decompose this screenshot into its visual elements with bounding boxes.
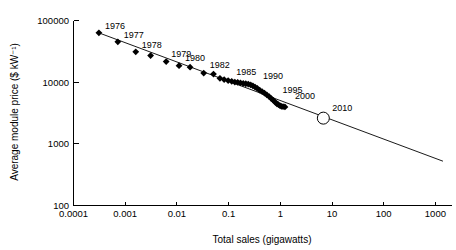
year-label-1985: 1985 — [236, 67, 256, 77]
data-point-diamond — [96, 29, 103, 36]
x-tick-label: 10 — [327, 208, 338, 219]
data-point-diamond — [132, 48, 139, 55]
y-tick-label: 100000 — [37, 15, 69, 26]
year-label-1978: 1978 — [142, 40, 162, 50]
data-point-diamond — [187, 64, 194, 71]
x-tick-label: 0.01 — [168, 208, 187, 219]
y-axis-ticks: 100100010000100000 — [37, 15, 78, 211]
year-label-1990: 1990 — [263, 71, 283, 81]
data-markers-group — [96, 29, 330, 124]
year-label-1977: 1977 — [124, 30, 144, 40]
x-tick-label: 1000 — [425, 208, 446, 219]
chart-canvas: 0.00010.0010.010.11101001000 10010001000… — [0, 0, 456, 250]
x-tick-label: 1 — [278, 208, 283, 219]
x-axis-title: Total sales (gigawatts) — [213, 234, 312, 245]
year-label-1976: 1976 — [105, 21, 125, 31]
x-tick-label: 100 — [376, 208, 392, 219]
year-label-1982: 1982 — [210, 60, 230, 70]
y-tick-label: 1000 — [48, 138, 69, 149]
x-tick-label: 0.001 — [113, 208, 137, 219]
y-tick-label: 10000 — [43, 77, 69, 88]
y-tick-label: 100 — [53, 200, 69, 211]
x-tick-label: 0.1 — [222, 208, 235, 219]
year-annotations-group: 1976197719781979198019821985199019952000… — [105, 21, 352, 113]
year-label-1980: 1980 — [185, 53, 205, 63]
year-label-2000: 2000 — [295, 91, 315, 101]
year-label-2010: 2010 — [332, 103, 352, 113]
learning-curve-chart: 0.00010.0010.010.11101001000 10010001000… — [0, 0, 456, 250]
data-point-open-circle — [317, 112, 329, 124]
x-axis-ticks: 0.00010.0010.010.11101001000 — [59, 202, 446, 220]
y-axis-title: Average module price ($ kW⁻¹) — [9, 43, 20, 181]
axes-group — [74, 21, 453, 206]
